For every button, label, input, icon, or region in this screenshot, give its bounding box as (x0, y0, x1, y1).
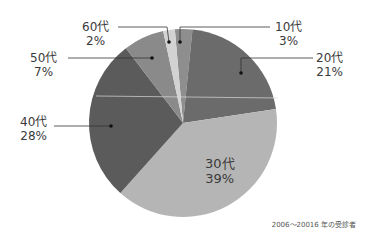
leader-dot-60s (167, 40, 171, 44)
label-40s-name: 40代 (20, 115, 47, 129)
label-20s-name: 20代 (316, 51, 343, 65)
label-10s: 10代 3% (275, 20, 302, 48)
label-30s: 30代 39% (205, 156, 235, 186)
leader-dot-50s (150, 56, 154, 60)
label-60s: 60代 2% (82, 20, 109, 48)
label-10s-pct: 3% (275, 34, 302, 48)
label-30s-name: 30代 (205, 156, 235, 171)
label-60s-name: 60代 (82, 20, 109, 34)
leader-dot-40s (109, 124, 113, 128)
pie-slices (89, 29, 277, 217)
leader-dot-20s (239, 71, 243, 75)
label-50s-name: 50代 (30, 51, 57, 65)
label-50s-pct: 7% (30, 65, 57, 79)
label-50s: 50代 7% (30, 51, 57, 79)
label-20s-pct: 21% (316, 65, 343, 79)
leader-dot-10s (178, 40, 182, 44)
label-40s: 40代 28% (20, 115, 47, 143)
pie-slice-20代 (183, 29, 276, 123)
footnote: 2006〜20016 年の受診者 (272, 219, 356, 229)
label-40s-pct: 28% (20, 129, 47, 143)
label-20s: 20代 21% (316, 51, 343, 79)
pie-chart (0, 0, 366, 241)
label-30s-pct: 39% (205, 171, 235, 186)
label-60s-pct: 2% (82, 34, 109, 48)
label-10s-name: 10代 (275, 20, 302, 34)
